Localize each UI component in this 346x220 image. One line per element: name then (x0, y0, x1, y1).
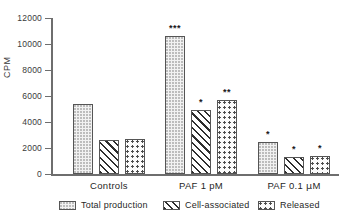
bar-chart-figure: CPM 12000 10000 8000 6000 4000 2000 0 **… (0, 0, 346, 220)
significance-marker: * (191, 98, 211, 107)
y-tick-label: 6000 (0, 91, 42, 101)
legend-swatch-icon (258, 201, 275, 210)
legend-label: Cell-associated (185, 200, 250, 210)
bar (165, 36, 185, 174)
bar (258, 142, 278, 175)
y-tick-label: 10000 (0, 39, 42, 49)
legend-item-cell-associated: Cell-associated (163, 200, 250, 210)
y-tick-label: 12000 (0, 13, 42, 23)
legend-swatch-icon (59, 201, 76, 210)
significance-marker: * (284, 145, 304, 154)
bar (284, 157, 304, 174)
significance-marker: * (258, 130, 278, 139)
y-tick-label: 4000 (0, 117, 42, 127)
bar (310, 156, 330, 174)
legend-swatch-icon (163, 201, 180, 210)
plot-area: ********* (51, 18, 339, 174)
bar (125, 139, 145, 174)
bar (191, 110, 211, 174)
legend: Total production Cell-associated Release… (0, 200, 346, 216)
significance-marker: * (310, 144, 330, 153)
legend-label: Total production (81, 200, 148, 210)
legend-label: Released (280, 200, 320, 210)
legend-item-released: Released (258, 200, 320, 210)
x-axis-line (51, 174, 339, 176)
bar (73, 104, 93, 174)
y-tick-label: 8000 (0, 65, 42, 75)
y-tick-label: 0 (0, 169, 42, 179)
y-tick-label: 2000 (0, 143, 42, 153)
significance-marker: ** (217, 88, 237, 97)
significance-marker: *** (165, 24, 185, 33)
bar (99, 140, 119, 174)
x-group-label-paf-01um: PAF 0.1 μM (234, 180, 346, 191)
bar (217, 100, 237, 174)
legend-item-total-production: Total production (59, 200, 148, 210)
